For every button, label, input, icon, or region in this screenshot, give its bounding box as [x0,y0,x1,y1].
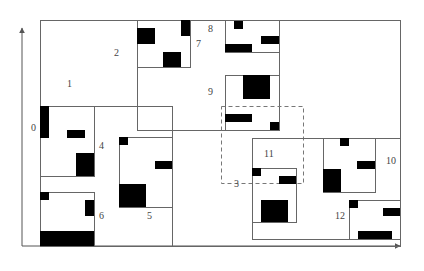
object-obj-9a [243,75,270,99]
object-obj-7c [181,20,190,36]
object-obj-9c [270,122,279,130]
object-obj-6b [85,200,94,216]
node-label-4: 4 [99,140,104,151]
object-obj-5c [119,184,146,207]
object-obj-8c [225,44,252,52]
object-obj-8b [261,36,279,44]
node-label-11: 11 [264,148,274,159]
node-label-6: 6 [99,210,104,221]
object-obj-7a [137,28,155,44]
node-label-7: 7 [196,38,201,49]
object-obj-10b [357,161,375,169]
object-obj-9b [225,114,252,122]
object-obj-0a [40,106,49,138]
object-obj-5a [119,137,128,145]
object-obj-11a [252,168,261,176]
object-obj-8a [234,21,243,29]
node-label-2: 2 [114,47,119,58]
object-obj-10c [323,169,341,192]
object-obj-11c [261,200,288,222]
object-obj-11b [279,176,296,184]
node-label-3: 3 [234,178,239,189]
object-obj-6c [40,231,94,246]
object-obj-4b [76,153,94,176]
object-obj-12c [358,231,392,239]
node-label-10: 10 [386,155,396,166]
node-label-9: 9 [208,86,213,97]
object-obj-12a [349,200,358,208]
node-label-5: 5 [147,210,152,221]
object-obj-5b [155,161,172,169]
node-label-8: 8 [208,23,213,34]
region-boxes [41,21,401,247]
node-label-0: 0 [31,122,36,133]
object-obj-12b [383,208,400,216]
object-obj-10a [340,138,349,146]
node-label-1: 1 [67,78,72,89]
object-obj-7b [163,52,181,67]
object-obj-4a [67,130,85,138]
node-label-12: 12 [335,210,345,221]
region-node-1 [41,21,138,107]
node-labels: 0123456789101112 [31,23,396,221]
object-obj-6a [40,192,49,200]
spatial-partition-diagram: 0123456789101112 [0,0,424,271]
